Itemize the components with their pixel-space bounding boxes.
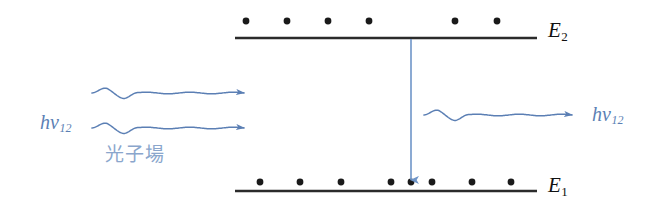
electron-dot	[338, 179, 345, 186]
upper-level-label: E2	[548, 20, 568, 43]
emitted-photon-label-subscript: 12	[611, 113, 624, 127]
upper-level-label-subscript: 2	[561, 29, 568, 44]
lower-level-electrons	[257, 179, 515, 186]
emitted-photon-label: hv12	[592, 104, 623, 126]
lower-level-label: E1	[548, 175, 568, 198]
electron-dot	[388, 179, 395, 186]
lower-level-label-text: E	[548, 173, 561, 197]
energy-level-diagram: E2 E1 hv12 hv12 光子場	[0, 0, 666, 215]
upper-level-electrons	[243, 18, 501, 25]
electron-dot	[469, 179, 476, 186]
electron-dot	[508, 179, 515, 186]
electron-dot	[297, 179, 304, 186]
incident-photon-wave-upper	[92, 88, 244, 98]
electron-dot	[257, 179, 264, 186]
electron-dot	[494, 18, 501, 25]
electron-dot	[366, 18, 373, 25]
emitted-photon-label-text: hv	[592, 103, 611, 125]
incident-photon-wave-lower	[92, 123, 244, 133]
electron-dot	[284, 18, 291, 25]
electron-dot	[325, 18, 332, 25]
emitted-photon-wave	[424, 110, 572, 120]
photon-field-label: 光子場	[105, 145, 165, 164]
electron-dot	[243, 18, 250, 25]
lower-level-label-subscript: 1	[561, 184, 568, 199]
upper-level-label-text: E	[548, 18, 561, 42]
incident-photon-label-subscript: 12	[59, 121, 72, 135]
electron-dot	[452, 18, 459, 25]
incident-photon-label-text: hv	[40, 111, 59, 133]
electron-dot	[429, 179, 436, 186]
incident-photon-label: hv12	[40, 112, 71, 134]
